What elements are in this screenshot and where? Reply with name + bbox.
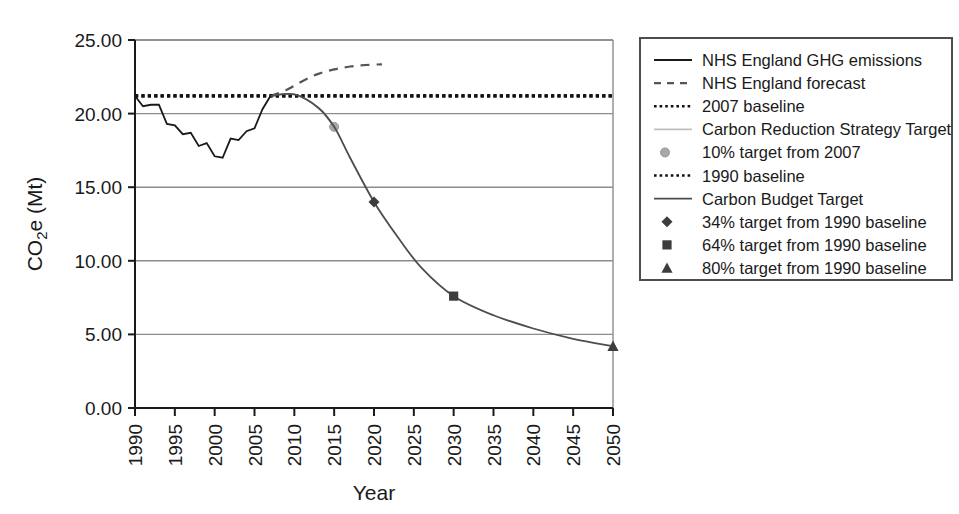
- y-axis: 0.005.0010.0015.0020.0025.00: [74, 30, 135, 419]
- series-34-target-from-1990-baseline-marker: [369, 196, 380, 207]
- x-tick-label: 2035: [484, 424, 505, 466]
- series-carbon-reduction-strategy-target: [270, 94, 334, 127]
- x-tick-label: 2005: [245, 424, 266, 466]
- x-tick-label: 2020: [364, 424, 385, 466]
- y-axis-title: CO2e (Mt): [23, 177, 50, 272]
- legend-item-label: 10% target from 2007: [702, 143, 861, 161]
- emissions-line-chart: 0.005.0010.0015.0020.0025.00199019952000…: [0, 0, 959, 514]
- x-tick-label: 2030: [444, 424, 465, 466]
- x-tick-label: 1990: [125, 424, 146, 466]
- series-carbon-budget-target: [270, 94, 613, 346]
- chart-figure: 0.005.0010.0015.0020.0025.00199019952000…: [0, 0, 959, 514]
- y-tick-label: 10.00: [74, 251, 122, 272]
- x-tick-label: 2025: [404, 424, 425, 466]
- legend-item[interactable]: 80% target from 1990 baseline: [661, 259, 926, 277]
- series-nhs-england-ghg-emissions: [135, 96, 270, 158]
- legend-item-label: 1990 baseline: [702, 167, 805, 185]
- legend-item-label: Carbon Reduction Strategy Target: [702, 120, 952, 138]
- y-tick-label: 0.00: [85, 398, 122, 419]
- legend-item-label: Carbon Budget Target: [702, 190, 864, 208]
- x-axis: 1990199520002005201020152020202520302035…: [125, 408, 624, 466]
- series-nhs-england-forecast: [270, 64, 382, 96]
- legend-glyph-square: [662, 240, 671, 249]
- legend-item-label: 80% target from 1990 baseline: [702, 259, 927, 277]
- series-64-target-from-1990-baseline-marker: [449, 292, 458, 301]
- series-group: [135, 64, 619, 351]
- legend-glyph-circle: [661, 148, 670, 157]
- y-tick-label: 15.00: [74, 177, 122, 198]
- x-tick-label: 2010: [284, 424, 305, 466]
- legend-item-label: 64% target from 1990 baseline: [702, 236, 927, 254]
- series-64-target-from-1990-baseline: [449, 292, 458, 301]
- legend-item-label: NHS England forecast: [702, 74, 866, 92]
- x-tick-label: 2000: [205, 424, 226, 466]
- legend-item[interactable]: 64% target from 1990 baseline: [662, 236, 926, 254]
- series-34-target-from-1990-baseline: [369, 196, 380, 207]
- gridlines: [135, 40, 613, 334]
- legend-item[interactable]: 34% target from 1990 baseline: [662, 213, 927, 231]
- legend-item-label: 34% target from 1990 baseline: [702, 213, 927, 231]
- y-axis-title-text: CO2e (Mt): [23, 177, 50, 272]
- y-tick-label: 25.00: [74, 30, 122, 51]
- x-tick-label: 1995: [165, 424, 186, 466]
- y-tick-label: 20.00: [74, 104, 122, 125]
- x-axis-title: Year: [353, 481, 395, 504]
- x-tick-label: 2040: [523, 424, 544, 466]
- x-tick-label: 2045: [563, 424, 584, 466]
- y-tick-label: 5.00: [85, 324, 122, 345]
- legend-item-label: 2007 baseline: [702, 97, 805, 115]
- legend-item-label: NHS England GHG emissions: [702, 51, 922, 69]
- x-tick-label: 2050: [603, 424, 624, 466]
- legend: NHS England GHG emissionsNHS England for…: [640, 38, 952, 280]
- x-tick-label: 2015: [324, 424, 345, 466]
